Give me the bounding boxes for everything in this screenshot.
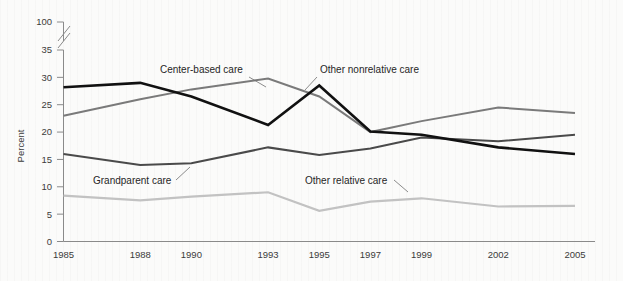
x-tick-label: 1995 [309,249,330,260]
x-axis-ticks: 198519881990199319951997199920022005 [53,249,586,260]
y-tick-label: 30 [41,72,52,83]
y-tick-label: 100 [36,16,52,27]
series-line-other-nonrelative-care [64,83,576,154]
y-tick-label: 15 [41,154,52,165]
x-tick-label: 1999 [411,249,432,260]
y-tick-label: 10 [41,181,52,192]
x-tick-label: 1990 [181,249,202,260]
x-tick-label: 2002 [488,249,509,260]
x-tick-label: 1985 [53,249,74,260]
series-annotation-label: Other nonrelative care [320,64,419,75]
chart-canvas: 05101520253035100 1985198819901993199519… [0,0,623,281]
series-annotation-label: Center-based care [160,64,243,75]
x-tick-label: 1997 [360,249,381,260]
series-line-other-relative-care [64,192,576,211]
series-lines [64,78,576,210]
series-annotation-leader [394,180,408,192]
y-tick-label: 25 [41,99,52,110]
x-tick-label: 2005 [564,249,585,260]
x-tick-label: 1988 [130,249,151,260]
y-tick-label: 20 [41,126,52,137]
y-tick-label: 0 [47,236,52,247]
y-axis-ticks: 05101520253035100 [36,16,63,247]
y-tick-label: 35 [41,44,52,55]
series-annotation-label: Grandparent care [93,175,172,186]
series-line-grandparent-care [64,135,576,165]
x-tick-label: 1993 [258,249,279,260]
y-axis-title: Percent [15,129,26,162]
series-annotation-label: Other relative care [305,175,388,186]
line-chart: 05101520253035100 1985198819901993199519… [0,0,623,281]
y-tick-label: 5 [47,209,52,220]
series-annotation-leader [176,167,190,180]
